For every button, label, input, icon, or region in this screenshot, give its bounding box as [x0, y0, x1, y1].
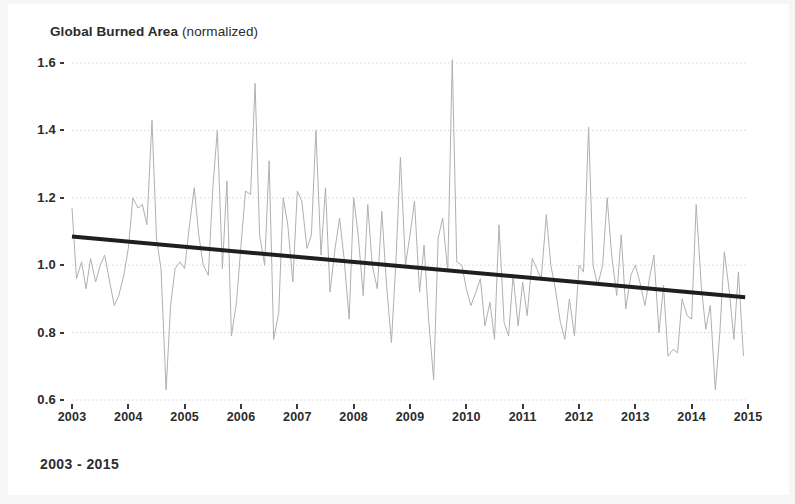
- y-axis-label: 1.4: [22, 122, 56, 137]
- y-axis-tick: [60, 197, 64, 199]
- figure-caption: 2003 - 2015: [40, 456, 119, 472]
- y-axis-label: 1.6: [22, 55, 56, 70]
- x-axis-label: 2014: [668, 410, 716, 424]
- y-axis-tick: [60, 62, 64, 64]
- chart-figure: Global Burned Area (normalized) 0.60.81.…: [0, 0, 795, 504]
- x-axis-tick: [747, 404, 749, 409]
- plot-svg: [0, 0, 795, 504]
- x-axis-tick: [184, 404, 186, 409]
- x-axis-tick: [465, 404, 467, 409]
- y-axis-label: 1.2: [22, 190, 56, 205]
- y-axis-label: 0.6: [22, 392, 56, 407]
- y-axis-label: 0.8: [22, 325, 56, 340]
- x-axis-tick: [240, 404, 242, 409]
- x-axis-tick: [578, 404, 580, 409]
- x-axis-tick: [127, 404, 129, 409]
- y-axis-label: 1.0: [22, 257, 56, 272]
- plot-area: 0.60.81.01.21.41.6 200320042005200620072…: [0, 0, 795, 504]
- x-axis-tick: [353, 404, 355, 409]
- y-axis-tick: [60, 129, 64, 131]
- y-axis-tick: [60, 399, 64, 401]
- x-axis-tick: [522, 404, 524, 409]
- x-axis-label: 2015: [724, 410, 772, 424]
- x-axis-label: 2003: [48, 410, 96, 424]
- x-axis-label: 2011: [499, 410, 547, 424]
- x-axis-label: 2004: [104, 410, 152, 424]
- x-axis-label: 2013: [611, 410, 659, 424]
- x-axis-label: 2007: [273, 410, 321, 424]
- x-axis-tick: [634, 404, 636, 409]
- x-axis-tick: [71, 404, 73, 409]
- series-polyline: [72, 60, 743, 390]
- y-axis-tick: [60, 264, 64, 266]
- x-axis-tick: [691, 404, 693, 409]
- x-axis-label: 2010: [442, 410, 490, 424]
- series-lines: [72, 60, 743, 390]
- x-axis-label: 2006: [217, 410, 265, 424]
- x-axis-tick: [409, 404, 411, 409]
- x-axis-label: 2009: [386, 410, 434, 424]
- x-axis-tick: [296, 404, 298, 409]
- x-axis-label: 2008: [330, 410, 378, 424]
- x-axis-label: 2005: [161, 410, 209, 424]
- x-axis-label: 2012: [555, 410, 603, 424]
- y-axis-tick: [60, 332, 64, 334]
